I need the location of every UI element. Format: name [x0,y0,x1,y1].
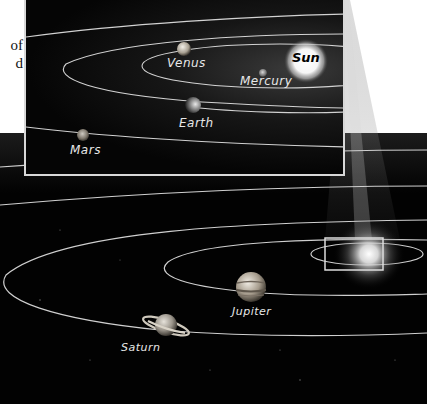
sun-glow-outer [333,218,405,290]
venus-planet [177,42,191,56]
venus-label: Venus [167,56,206,70]
jupiter-label: Jupiter [232,305,271,318]
mars-label: Mars [70,143,101,157]
sun-label: Sun [292,50,320,65]
orbit-top-line [26,14,345,37]
inner-solar-system-inset: Sun Venus Mercury Earth Mars [24,0,345,176]
earth-label: Earth [179,116,214,130]
saturn-planet [141,313,190,339]
saturn-label: Saturn [121,341,161,354]
jupiter-planet [236,272,266,302]
earth-planet [185,97,201,113]
mars-planet [77,129,89,141]
mercury-label: Mercury [240,74,292,88]
